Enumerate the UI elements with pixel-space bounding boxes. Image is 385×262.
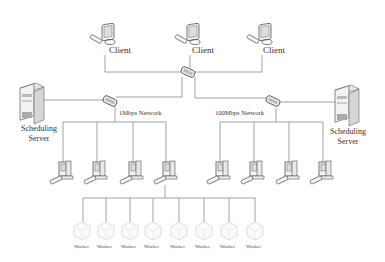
pc-icon (207, 161, 230, 184)
connection-lines (36, 55, 345, 222)
left-server-icon (20, 83, 44, 124)
worker-label: Worker (220, 244, 235, 249)
right-server-label-line1: Scheduling (323, 127, 373, 137)
pc-icon (50, 161, 73, 184)
pc-icon (276, 161, 299, 184)
worker-node-icon (171, 222, 187, 240)
right-switch-icon (265, 95, 281, 107)
pc-icon (120, 161, 143, 184)
client-label: Client (109, 45, 131, 55)
right-server-icon (335, 85, 359, 126)
worker-label: Worker (195, 244, 210, 249)
pc-icon (84, 161, 107, 184)
worker-label: Worker (144, 244, 159, 249)
left-server-label-line1: Scheduling (14, 124, 64, 134)
left-server-label: Scheduling Server (14, 124, 64, 144)
worker-label: Worker (121, 244, 136, 249)
worker-label: Worker (246, 244, 261, 249)
central-switch-icon (180, 66, 196, 78)
right-network-label: 100Mbps Network (215, 109, 264, 116)
worker-node-icon (196, 222, 212, 240)
pc-icon (154, 161, 177, 184)
worker-node-icon (145, 222, 161, 240)
client-label: Client (192, 45, 214, 55)
right-server-label: Scheduling Server (323, 127, 373, 147)
worker-node-icon (221, 222, 237, 240)
worker-label: Worker (74, 244, 89, 249)
right-server-label-line2: Server (323, 137, 373, 147)
pc-icon (241, 161, 264, 184)
client-monitor-icon (247, 23, 272, 44)
pc-icon (310, 161, 333, 184)
worker-node-icon (247, 222, 263, 240)
left-server-label-line2: Server (14, 134, 64, 144)
client-monitor-icon (175, 23, 200, 44)
worker-node-icon (122, 222, 138, 240)
client-monitor-icon (90, 23, 115, 44)
left-switch-icon (102, 95, 118, 107)
worker-label: Worker (170, 244, 185, 249)
client-label: Client (263, 45, 285, 55)
worker-node-icon (74, 222, 90, 240)
left-network-label: 1Mbps Network (119, 109, 161, 116)
worker-node-icon (98, 222, 114, 240)
worker-label: Worker (97, 244, 112, 249)
